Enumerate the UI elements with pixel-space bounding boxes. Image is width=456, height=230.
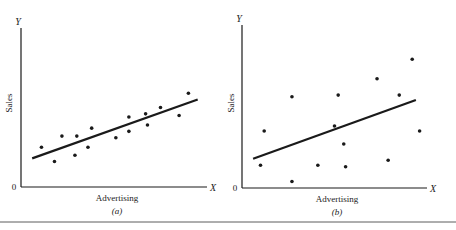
panel-a-data-point: [114, 136, 118, 140]
panel-b-data-point: [386, 158, 390, 162]
panel-b-data-point: [316, 163, 320, 167]
panel-a-data-point: [53, 160, 57, 164]
panel-a-data-point: [159, 106, 163, 110]
panel-a-data-point: [40, 145, 44, 149]
panel-b-data-point: [259, 163, 263, 167]
panel-a-data-point: [86, 145, 90, 149]
panel-b-data-point: [290, 180, 294, 184]
panel-a-regression-line: [32, 100, 198, 159]
panel-b-x-label: Advertising: [316, 194, 359, 204]
panel-a-y-label: Sales: [4, 93, 14, 112]
panel-a-data-point: [127, 130, 131, 134]
panel-a-caption: (a): [112, 206, 123, 216]
panel-a-origin-label: 0: [12, 182, 17, 192]
panel-b-data-point: [336, 93, 340, 97]
panel-b-data-point: [375, 77, 379, 81]
panel-b-data-point: [397, 93, 401, 97]
panel-b-regression-line: [253, 100, 416, 159]
panel-b-data-point: [410, 57, 414, 61]
panel-b-origin-label: 0: [233, 183, 238, 193]
panel-a-data-point: [146, 123, 150, 127]
panel-b-data-point: [418, 129, 422, 133]
panel-b-data-point: [342, 142, 346, 146]
panel-a-y-letter: Y: [15, 16, 22, 27]
panel-a-x-label: Advertising: [96, 193, 139, 203]
panel-b-data-point: [333, 124, 337, 128]
panel-a-data-point: [127, 115, 131, 119]
panel-b-data-point: [344, 165, 348, 169]
panel-b-data-point: [290, 95, 294, 99]
panel-b-y-label: Sales: [226, 93, 236, 112]
panel-a-data-point: [144, 112, 148, 116]
panel-a-data-point: [177, 114, 181, 118]
panel-b-y-letter: Y: [236, 13, 243, 24]
panel-a-data-point: [73, 153, 77, 157]
panel-a-x-letter: X: [209, 182, 217, 193]
panel-b-caption: (b): [332, 207, 343, 217]
panel-a-data-point: [187, 91, 191, 95]
panel-a-data-point: [90, 126, 94, 130]
panel-b-x-letter: X: [429, 183, 437, 194]
figure: YX0AdvertisingSales(a)YX0AdvertisingSale…: [0, 0, 456, 230]
panel-b-data-point: [262, 129, 266, 133]
panel-a-data-point: [60, 134, 64, 138]
panel-a-data-point: [75, 134, 79, 138]
